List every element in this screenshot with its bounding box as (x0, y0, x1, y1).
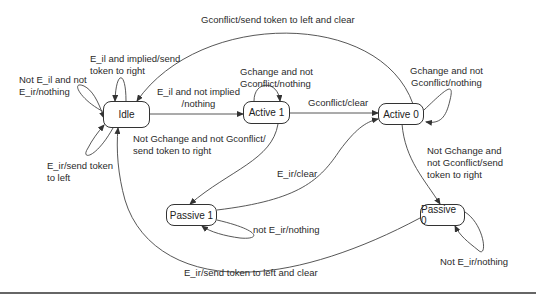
label-passive1-self: not E_ir/nothing (253, 224, 320, 236)
state-active-1: Active 1 (243, 101, 290, 124)
edge-idle-self-bottom (86, 125, 113, 155)
label-idle-self-left: Not E_il and not E_ir/nothing (19, 74, 87, 98)
state-active-1-label: Active 1 (249, 107, 285, 118)
label-active0-self: Gchange and not Gconflict/nothing (410, 65, 483, 89)
label-passive0-idle: E_ir/send token to left and clear (184, 267, 318, 279)
label-active0-passive0: Not Gchange and not Gconflict/send token… (427, 145, 503, 181)
label-active1-self: Gchange and not Gconflict/nothing (240, 66, 313, 90)
state-active-0: Active 0 (378, 103, 424, 125)
state-passive-1-label: Passive 1 (170, 210, 213, 221)
state-passive-0: Passive 0 (420, 204, 465, 226)
state-passive-1: Passive 1 (166, 204, 217, 226)
label-idle-active1: E_il and not implied /nothing (157, 86, 240, 110)
state-idle-label: Idle (118, 109, 134, 120)
edge-active0-self (424, 89, 451, 122)
label-idle-self-top: E_il and implied/send token to right (90, 53, 180, 77)
state-active-0-label: Active 0 (383, 109, 419, 120)
label-active1-passive1: Not Gchange and not Gconflict/ send toke… (133, 133, 266, 157)
state-idle: Idle (103, 101, 150, 128)
bottom-divider (0, 292, 536, 294)
label-passive1-active0: E_ir/clear (277, 168, 317, 180)
label-active0-idle: Gconflict/send token to left and clear (201, 14, 355, 26)
label-passive0-self: Not E_ir/nothing (440, 256, 508, 268)
label-active1-active0: Gconflict/clear (308, 97, 368, 109)
edge-idle-self-top (115, 78, 126, 101)
label-idle-self-bottom: E_ir/send token to left (47, 160, 113, 184)
state-passive-0-label: Passive 0 (421, 204, 464, 226)
